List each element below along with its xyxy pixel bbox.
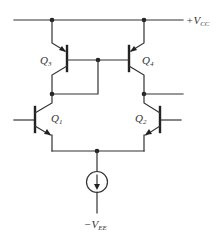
q1-label: Q1 xyxy=(51,112,62,126)
circuit-schematic: +VCC −VEE Q3 Q4 Q1 Q2 xyxy=(0,0,222,240)
current-source xyxy=(87,151,108,213)
diode-connection xyxy=(52,60,98,94)
emitter-arrow-icon xyxy=(130,46,137,52)
transistor-q3 xyxy=(52,20,67,94)
vee-label: −VEE xyxy=(84,218,107,232)
vcc-label: +VCC xyxy=(186,14,210,28)
transistor-q1 xyxy=(14,94,52,151)
q4-label: Q4 xyxy=(142,54,154,68)
transistor-q2 xyxy=(144,94,181,151)
q3-label: Q3 xyxy=(40,54,52,68)
q2-label: Q2 xyxy=(135,112,147,126)
emitter-arrow-icon xyxy=(59,46,66,52)
